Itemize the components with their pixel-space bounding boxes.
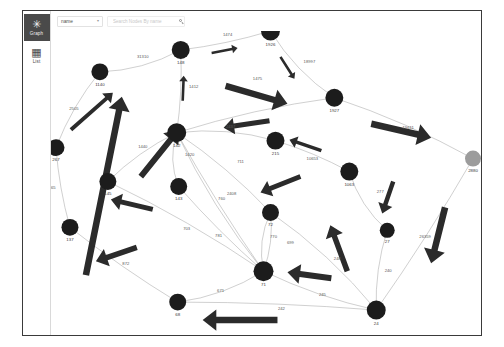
node-layer[interactable]: 1140148192619272880142215106326714514313… bbox=[51, 31, 481, 326]
graph-node[interactable]: 137 bbox=[61, 219, 78, 242]
edge-label: 245 bbox=[319, 292, 327, 297]
node-circle[interactable] bbox=[340, 163, 358, 181]
attribute-select-value: name bbox=[61, 19, 73, 24]
flow-arrow bbox=[261, 174, 302, 196]
graph-canvas[interactable]: 3131025051474189971475141224371961110653… bbox=[51, 31, 481, 335]
edge-label: 1365 bbox=[51, 185, 56, 190]
node-circle[interactable] bbox=[465, 151, 481, 167]
node-circle[interactable] bbox=[172, 41, 190, 59]
graph-node[interactable]: 215 bbox=[266, 132, 284, 156]
node-label: 71 bbox=[261, 282, 266, 287]
graph-visualization[interactable]: 3131025051474189971475141224371961110653… bbox=[51, 31, 481, 335]
node-circle[interactable] bbox=[170, 178, 187, 195]
node-label: 1927 bbox=[329, 108, 339, 113]
graph-edge[interactable] bbox=[177, 131, 276, 141]
sidebar-item-graph[interactable]: ✳ Graph bbox=[24, 14, 50, 41]
node-circle[interactable] bbox=[91, 63, 108, 80]
flow-arrow bbox=[289, 136, 322, 152]
graph-node[interactable]: 1063 bbox=[340, 163, 358, 187]
edge-label: 248 bbox=[334, 256, 342, 261]
edge-label: 770 bbox=[270, 234, 278, 239]
node-label: 27 bbox=[385, 239, 390, 244]
flow-arrow bbox=[326, 225, 350, 272]
node-label: 142 bbox=[173, 143, 181, 148]
search-icon bbox=[179, 19, 184, 24]
toolbar: name ▾ bbox=[51, 11, 481, 31]
attribute-select[interactable]: name ▾ bbox=[57, 16, 103, 27]
edge-label: 781 bbox=[215, 233, 223, 238]
graph-node[interactable]: 267 bbox=[51, 139, 64, 162]
edge-label: 699 bbox=[287, 240, 295, 245]
graph-edge[interactable] bbox=[178, 271, 264, 302]
node-label: 1140 bbox=[95, 82, 105, 87]
edge-label: 1474 bbox=[223, 32, 233, 37]
node-label: 24 bbox=[374, 321, 379, 326]
graph-node[interactable]: 27 bbox=[380, 223, 395, 244]
node-label: 143 bbox=[175, 196, 183, 201]
graph-node[interactable]: 2880 bbox=[465, 151, 481, 173]
flow-arrow bbox=[203, 309, 278, 330]
edge-label: 671 bbox=[217, 288, 225, 293]
edge-label: 2437 bbox=[226, 124, 236, 129]
node-label: 2880 bbox=[468, 168, 478, 173]
sidebar-rail: ✳ Graph ▦ List bbox=[23, 11, 51, 335]
node-circle[interactable] bbox=[325, 89, 343, 107]
node-label: 145 bbox=[104, 191, 112, 196]
graph-edge[interactable] bbox=[270, 31, 334, 98]
graph-node[interactable]: 1140 bbox=[91, 63, 108, 86]
graph-node[interactable]: 71 bbox=[254, 261, 274, 287]
node-circle[interactable] bbox=[167, 123, 186, 142]
flow-arrow bbox=[287, 264, 331, 284]
graph-node[interactable]: 72 bbox=[262, 204, 279, 227]
node-circle[interactable] bbox=[61, 219, 78, 236]
node-circle[interactable] bbox=[254, 261, 274, 281]
node-label: 1926 bbox=[266, 42, 276, 47]
flow-arrow bbox=[279, 56, 295, 79]
edge-label: 1440 bbox=[138, 144, 148, 149]
flow-arrow bbox=[70, 93, 113, 131]
edge-label: 240 bbox=[385, 268, 393, 273]
node-label: 137 bbox=[66, 237, 74, 242]
edge-label: 26359 bbox=[419, 234, 431, 239]
graph-edge[interactable] bbox=[349, 172, 387, 231]
edge-label: 31310 bbox=[137, 54, 149, 59]
node-label: 68 bbox=[175, 312, 180, 317]
graph-node[interactable]: 148 bbox=[172, 41, 190, 65]
edge-label: 703 bbox=[183, 226, 191, 231]
edge-label: 1412 bbox=[189, 84, 199, 89]
graph-edge[interactable] bbox=[178, 302, 377, 310]
edge-label: 1475 bbox=[253, 76, 263, 81]
graph-node[interactable]: 1926 bbox=[261, 31, 280, 47]
edge-label: 711 bbox=[237, 159, 244, 164]
flow-arrow bbox=[211, 45, 237, 54]
app-window: ✳ Graph ▦ List name ▾ 313102505147418997… bbox=[22, 10, 482, 336]
edge-label: 2505 bbox=[69, 106, 79, 111]
flow-arrow bbox=[96, 245, 138, 266]
node-circle[interactable] bbox=[261, 31, 280, 40]
graph-edge[interactable] bbox=[177, 98, 335, 133]
edge-label: 277 bbox=[377, 189, 385, 194]
node-circle[interactable] bbox=[262, 204, 279, 221]
graph-node[interactable]: 24 bbox=[367, 301, 386, 326]
flow-arrow bbox=[378, 181, 395, 214]
graph-node[interactable]: 143 bbox=[170, 178, 187, 201]
edge-label: 760 bbox=[218, 196, 226, 201]
graph-node[interactable]: 1927 bbox=[325, 89, 343, 113]
search-box[interactable] bbox=[107, 16, 185, 27]
node-circle[interactable] bbox=[266, 132, 284, 150]
edge-label: 872 bbox=[122, 261, 130, 266]
graph-node[interactable]: 68 bbox=[169, 294, 186, 317]
node-circle[interactable] bbox=[51, 139, 64, 156]
sidebar-item-list-label: List bbox=[33, 59, 41, 65]
node-circle[interactable] bbox=[169, 294, 186, 311]
sidebar-item-list[interactable]: ▦ List bbox=[24, 42, 50, 69]
node-circle[interactable] bbox=[99, 173, 116, 190]
search-input[interactable] bbox=[111, 18, 179, 25]
node-circle[interactable] bbox=[367, 301, 386, 320]
edge-label: 10653 bbox=[307, 156, 319, 161]
graph-icon: ✳ bbox=[32, 19, 41, 30]
node-circle[interactable] bbox=[380, 223, 395, 238]
node-label: 215 bbox=[272, 151, 280, 156]
node-label: 72 bbox=[268, 222, 273, 227]
chevron-down-icon: ▾ bbox=[97, 19, 99, 23]
